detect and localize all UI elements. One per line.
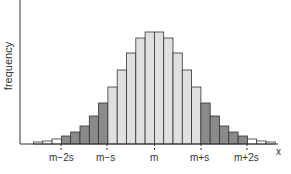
histogram-bar bbox=[247, 139, 256, 144]
histogram-bar bbox=[117, 70, 126, 144]
histogram-bar bbox=[99, 103, 108, 144]
tick-label-m-minus-2s: m−2s bbox=[49, 152, 74, 163]
histogram-bar bbox=[164, 38, 173, 144]
histogram-bar bbox=[108, 87, 117, 144]
tick-label-m: m bbox=[150, 152, 158, 163]
histogram-bars bbox=[34, 32, 276, 144]
x-axis-label: x bbox=[276, 146, 281, 157]
y-axis-label: frequency bbox=[2, 42, 14, 90]
histogram-bar bbox=[127, 53, 136, 144]
histogram-bar bbox=[238, 136, 247, 144]
histogram-bar bbox=[145, 32, 154, 144]
histogram-bar bbox=[154, 32, 163, 144]
tick-label-m-plus-2s: m+2s bbox=[234, 152, 259, 163]
histogram-bar bbox=[61, 136, 70, 144]
histogram-bar bbox=[71, 132, 80, 144]
histogram-bar bbox=[201, 103, 210, 144]
histogram-bar bbox=[182, 70, 191, 144]
histogram-bar bbox=[80, 126, 89, 144]
histogram-bar bbox=[89, 116, 98, 144]
sigma-tick-lines bbox=[61, 144, 247, 152]
histogram-bar bbox=[210, 116, 219, 144]
histogram-bar bbox=[192, 87, 201, 144]
tick-label-m-minus-s: m−s bbox=[96, 152, 115, 163]
histogram-bar bbox=[229, 132, 238, 144]
histogram-bar bbox=[220, 126, 229, 144]
tick-label-m-plus-s: m+s bbox=[190, 152, 209, 163]
histogram-chart bbox=[0, 0, 291, 174]
histogram-bar bbox=[173, 53, 182, 144]
histogram-bar bbox=[52, 139, 61, 144]
histogram-bar bbox=[136, 38, 145, 144]
